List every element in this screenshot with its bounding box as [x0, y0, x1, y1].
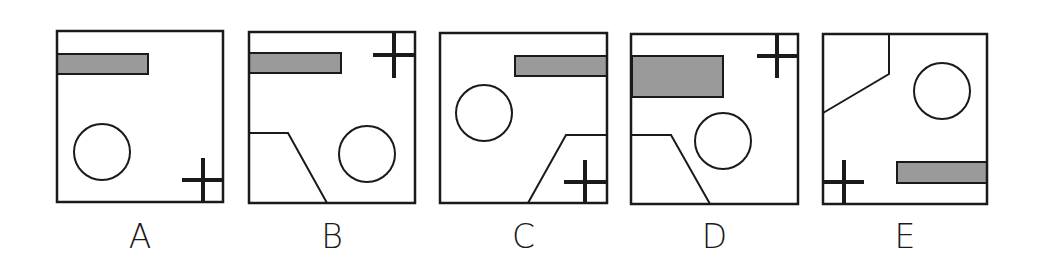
option-label: C [512, 217, 535, 256]
trapezoid-outline [528, 135, 607, 203]
option-label: B [321, 217, 343, 256]
option-label: A [129, 217, 152, 256]
circle-shape [456, 85, 512, 141]
shaded-rectangle [57, 54, 148, 74]
option-label: D [702, 217, 727, 256]
option-panel-a[interactable]: A [57, 31, 223, 256]
plus-cross-icon [757, 34, 798, 78]
shaded-rectangle [897, 162, 987, 183]
circle-shape [74, 124, 130, 180]
shaded-rectangle [515, 56, 607, 76]
figure-options-diagram: ABCDE [0, 0, 1037, 273]
option-panel-c[interactable]: C [440, 33, 607, 256]
circle-shape [695, 113, 751, 169]
shaded-rectangle [632, 56, 723, 97]
plus-cross-icon [373, 32, 415, 78]
option-label: E [895, 217, 916, 256]
plus-cross-icon [823, 160, 864, 204]
trapezoid-outline [631, 135, 710, 204]
option-panel-e[interactable]: E [823, 34, 987, 256]
trapezoid-outline [823, 34, 889, 113]
option-panel-d[interactable]: D [631, 34, 798, 256]
circle-shape [339, 126, 395, 182]
option-panel-b[interactable]: B [249, 32, 415, 256]
plus-cross-icon [564, 160, 607, 203]
shaded-rectangle [249, 53, 341, 73]
plus-cross-icon [182, 158, 223, 202]
panels: ABCDE [57, 31, 987, 256]
circle-shape [914, 63, 970, 119]
trapezoid-outline [249, 133, 327, 203]
